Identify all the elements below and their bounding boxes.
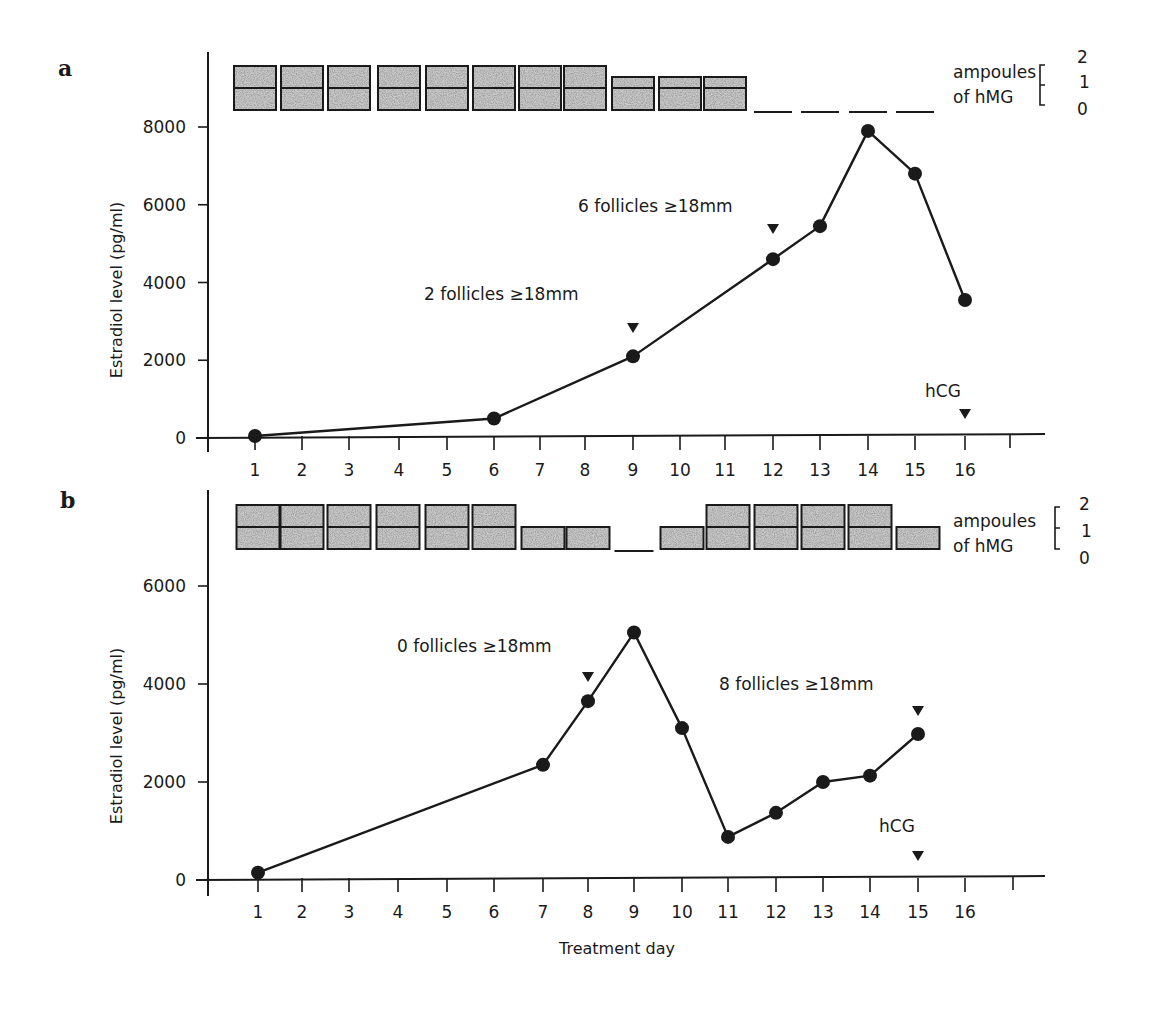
x-ticks-b: 12345678910111213141516	[253, 876, 1013, 922]
panel-b: b 0200040006000 Estradiol level (pg/ml) …	[60, 487, 1092, 958]
triangle-down-icon	[912, 706, 924, 716]
ampoule-box	[426, 505, 469, 549]
annotations-b: 0 follicles ≥18mm8 follicles ≥18mmhCG	[397, 636, 924, 861]
x-tick-label: 14	[859, 902, 881, 922]
ampoule-box	[564, 66, 606, 110]
annotation-text: 8 follicles ≥18mm	[719, 674, 874, 694]
x-tick-label: 6	[489, 460, 500, 480]
x-tick-label: 12	[765, 902, 787, 922]
y-tick-label: 2000	[143, 772, 186, 792]
x-tick-label: 5	[442, 460, 453, 480]
x-tick-label: 4	[393, 902, 404, 922]
x-tick-label: 9	[629, 902, 640, 922]
x-tick-label: 5	[442, 902, 453, 922]
ampoule-box	[802, 505, 845, 549]
y-tick-label: 6000	[143, 576, 186, 596]
x-tick-label: 1	[250, 460, 261, 480]
ampoule-box	[659, 77, 701, 110]
x-tick-label: 7	[535, 460, 546, 480]
ampoule-box	[707, 505, 750, 549]
data-point	[627, 626, 641, 640]
x-tick-label: 11	[717, 902, 739, 922]
x-tick-label: 1	[253, 902, 264, 922]
ampoule-level-1: 1	[1081, 521, 1092, 541]
data-point	[911, 727, 925, 741]
data-point	[251, 866, 265, 880]
x-tick-label: 13	[809, 460, 831, 480]
data-point	[721, 830, 735, 844]
y-tick-label: 6000	[143, 195, 186, 215]
data-point	[861, 124, 875, 138]
data-point	[248, 429, 262, 443]
annotation-text: 0 follicles ≥18mm	[397, 636, 552, 656]
ampoule-legend-line1: ampoules	[953, 511, 1036, 531]
x-axis-title: Treatment day	[558, 939, 675, 958]
triangle-down-icon	[912, 851, 924, 861]
ampoule-legend-line2: of hMG	[953, 536, 1013, 556]
ampoule-box	[567, 527, 610, 549]
data-point	[958, 293, 972, 307]
data-point	[581, 694, 595, 708]
data-point	[487, 412, 501, 426]
annotations-a: 2 follicles ≥18mm6 follicles ≥18mmhCG	[424, 196, 971, 419]
panel-label-a: a	[58, 55, 72, 81]
x-tick-label: 10	[671, 902, 693, 922]
y-axis-title-a: Estradiol level (pg/ml)	[107, 202, 126, 378]
ampoule-box	[328, 66, 370, 110]
ampoule-level-0: 0	[1077, 99, 1088, 119]
triangle-down-icon	[582, 672, 594, 682]
ampoule-box	[519, 66, 561, 110]
x-tick-label: 15	[904, 460, 926, 480]
y-tick-label: 0	[175, 428, 186, 448]
data-point	[863, 769, 877, 783]
x-tick-label: 16	[954, 460, 976, 480]
x-tick-label: 14	[857, 460, 879, 480]
ampoule-box	[473, 66, 515, 110]
ampoule-box	[378, 66, 420, 110]
ampoule-box	[755, 505, 798, 549]
data-point	[769, 806, 783, 820]
ampoule-box	[704, 77, 746, 110]
x-tick-label: 8	[580, 460, 591, 480]
estradiol-series-a	[248, 124, 972, 443]
x-tick-label: 16	[954, 902, 976, 922]
annotation-text: hCG	[925, 381, 961, 401]
ampoule-box	[473, 505, 516, 549]
estradiol-figure: a 02000400060008000 Estradiol level (pg/…	[0, 0, 1151, 1013]
ampoule-box	[612, 77, 654, 110]
x-tick-label: 2	[297, 902, 308, 922]
x-tick-label: 12	[762, 460, 784, 480]
ampoule-box	[234, 66, 276, 110]
panel-a: a 02000400060008000 Estradiol level (pg/…	[58, 47, 1090, 480]
y-tick-label: 0	[175, 870, 186, 890]
x-ticks-a: 12345678910111213141516	[250, 434, 1010, 480]
data-point	[816, 775, 830, 789]
ampoule-box	[849, 505, 892, 549]
ampoule-box	[281, 505, 324, 549]
estradiol-line	[258, 633, 918, 873]
annotation-text: 2 follicles ≥18mm	[424, 284, 579, 304]
ampoule-box	[377, 505, 420, 549]
ampoule-legend-line2: of hMG	[953, 87, 1013, 107]
y-tick-label: 2000	[143, 350, 186, 370]
data-point	[908, 167, 922, 181]
ampoule-row-b	[237, 505, 940, 551]
x-tick-label: 6	[489, 902, 500, 922]
ampoule-box	[661, 527, 704, 549]
ampoule-level-0: 0	[1079, 548, 1090, 568]
data-point	[626, 349, 640, 363]
x-tick-label: 15	[907, 902, 929, 922]
ampoule-level-1: 1	[1079, 72, 1090, 92]
panel-label-b: b	[60, 487, 75, 513]
ampoule-legend-line1: ampoules	[953, 62, 1036, 82]
x-tick-label: 9	[628, 460, 639, 480]
x-axis-a	[196, 434, 1045, 438]
annotation-text: hCG	[879, 816, 915, 836]
x-tick-label: 4	[394, 460, 405, 480]
ampoule-box	[522, 527, 565, 549]
data-point	[766, 252, 780, 266]
data-point	[675, 721, 689, 735]
ampoule-legend-a: ampoules of hMG 2 1 0	[953, 47, 1090, 119]
ampoule-legend-b: ampoules of hMG 2 1 0	[953, 494, 1092, 568]
x-tick-label: 10	[669, 460, 691, 480]
